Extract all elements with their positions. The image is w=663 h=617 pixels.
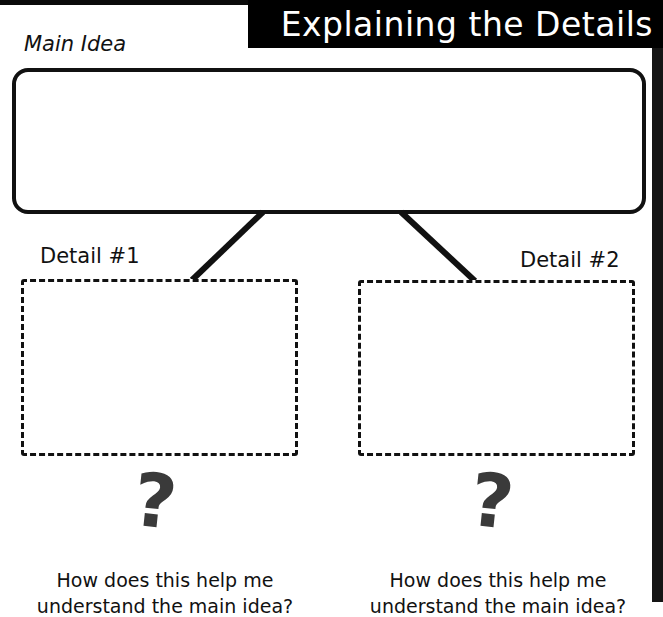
question-line-2: understand the main idea? [15,593,315,617]
question-line-2: understand the main idea? [348,593,648,617]
connector-line-detail-1 [192,212,263,280]
main-idea-label: Main Idea [24,32,126,56]
page-title: Explaining the Details [281,5,653,44]
detail-2-question: How does this help me understand the mai… [348,567,648,617]
connector-line-detail-2 [401,212,475,281]
question-line-1: How does this help me [348,567,648,593]
main-idea-box[interactable] [12,68,646,214]
question-mark-icon: ? [448,454,537,548]
title-banner: Explaining the Details [248,0,663,48]
detail-1-label: Detail #1 [40,244,140,268]
detail-2-box[interactable] [358,280,635,456]
detail-1-box[interactable] [21,279,298,456]
question-mark-icon: ? [111,454,200,548]
page-right-border [652,0,663,602]
detail-1-question: How does this help me understand the mai… [15,567,315,617]
question-line-1: How does this help me [15,567,315,593]
detail-2-label: Detail #2 [520,248,620,272]
